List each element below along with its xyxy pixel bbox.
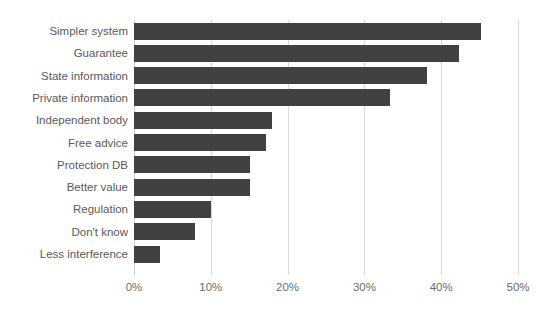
bar xyxy=(134,156,250,173)
bar xyxy=(134,179,250,196)
y-axis-label: Guarantee xyxy=(0,42,128,64)
bar xyxy=(134,89,390,106)
bar-row xyxy=(134,20,518,42)
y-axis-category-labels: Simpler systemGuaranteeState information… xyxy=(0,20,128,275)
bars-layer xyxy=(134,20,518,275)
bar-row xyxy=(134,154,518,176)
bar xyxy=(134,112,272,129)
y-axis-label: State information xyxy=(0,65,128,87)
x-axis-tick-label: 20% xyxy=(276,279,299,295)
x-axis-tick-label: 40% xyxy=(430,279,453,295)
bar xyxy=(134,201,211,218)
y-axis-label: Simpler system xyxy=(0,20,128,42)
bar xyxy=(134,67,427,84)
bar-row xyxy=(134,132,518,154)
y-axis-label: Protection DB xyxy=(0,154,128,176)
bar xyxy=(134,134,266,151)
plot-area xyxy=(134,20,518,275)
bar xyxy=(134,45,459,62)
bar-row xyxy=(134,87,518,109)
x-axis-tick-label: 50% xyxy=(506,279,529,295)
bar-chart: Simpler systemGuaranteeState information… xyxy=(0,0,552,312)
y-axis-label: Independent body xyxy=(0,109,128,131)
y-axis-label: Free advice xyxy=(0,132,128,154)
bar-row xyxy=(134,42,518,64)
bar-row xyxy=(134,243,518,265)
y-axis-label: Better value xyxy=(0,176,128,198)
y-axis-label: Don't know xyxy=(0,221,128,243)
bar xyxy=(134,246,160,263)
bar-row xyxy=(134,176,518,198)
y-axis-label: Private information xyxy=(0,87,128,109)
bar-row xyxy=(134,109,518,131)
x-axis-tick-labels: 0%10%20%30%40%50% xyxy=(0,279,552,301)
bar xyxy=(134,23,481,40)
gridline-50% xyxy=(518,20,519,275)
bar-row xyxy=(134,65,518,87)
x-axis-tick-label: 0% xyxy=(126,279,143,295)
y-axis-label: Regulation xyxy=(0,198,128,220)
bar-row xyxy=(134,198,518,220)
x-axis-tick-label: 10% xyxy=(199,279,222,295)
y-axis-label: Less interference xyxy=(0,243,128,265)
bar xyxy=(134,223,195,240)
bar-row xyxy=(134,221,518,243)
x-axis-tick-label: 30% xyxy=(353,279,376,295)
